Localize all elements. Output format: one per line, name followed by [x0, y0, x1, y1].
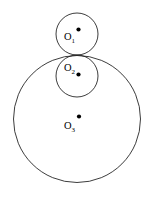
center-dot-o2	[76, 72, 80, 76]
center-dot-o1	[76, 27, 80, 31]
geometry-figure: O1 O2 O3	[0, 0, 150, 197]
tangent-circles-diagram: O1 O2 O3	[0, 0, 150, 197]
center-dot-o3	[77, 114, 81, 118]
figure-background	[0, 0, 150, 197]
